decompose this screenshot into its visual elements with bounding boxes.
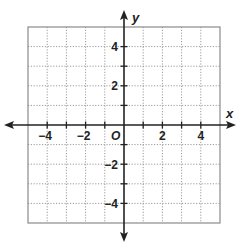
y-axis-label: y [131,10,140,25]
origin-label: O [111,129,121,143]
x-axis-label: x [225,106,234,121]
y-tick-label: −2 [104,158,118,172]
x-tick-label: −4 [38,129,52,143]
coordinate-plane: −4−22442−2−4 x y O [0,0,240,249]
y-tick-label: 4 [111,40,118,54]
y-tick-label: 2 [111,79,118,93]
x-tick-label: 4 [197,129,204,143]
y-tick-label: −4 [104,197,118,211]
x-tick-label: 2 [159,129,166,143]
x-tick-label: −2 [77,129,91,143]
